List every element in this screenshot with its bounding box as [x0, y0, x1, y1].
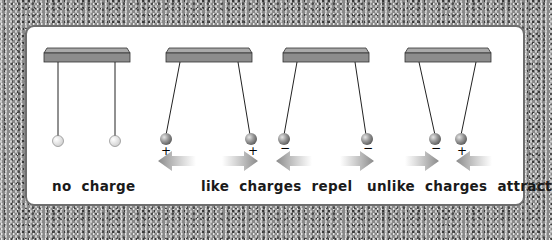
strings [58, 62, 476, 137]
support-bar-1 [44, 48, 130, 62]
charge-sign: − [431, 141, 441, 155]
charge-sign: + [457, 144, 467, 158]
charge-sign: + [248, 144, 258, 158]
caption-unlike-charges-attract: unlike charges attract [367, 178, 552, 194]
support-bar-3 [283, 48, 369, 62]
neutral-ball-right [110, 136, 121, 147]
support-bar-2 [166, 48, 252, 62]
charge-sign: − [363, 141, 373, 155]
caption-no-charge: no charge [52, 178, 136, 194]
support-bar-4 [405, 48, 491, 62]
caption-like-charges-repel: like charges repel [201, 178, 352, 194]
charge-sign: + [161, 144, 171, 158]
charge-sign: − [280, 141, 290, 155]
neutral-ball-left [53, 136, 64, 147]
